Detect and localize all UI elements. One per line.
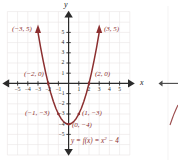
curve-arrow-left <box>35 25 41 33</box>
point-label-neg3-5: (−3, 5) <box>12 26 32 33</box>
y-tick-label-2: 2 <box>60 60 67 66</box>
y-tick-label-neg5: −5 <box>57 132 66 138</box>
x-tick-label-neg5: −5 <box>13 87 23 93</box>
point-label-neg2-0: (−2, 0) <box>24 71 44 78</box>
y-tick-label-neg4: −4 <box>57 122 66 128</box>
equation-label: y = f(x) = x2 − 4 <box>71 138 119 145</box>
adjacent-figure-fragment <box>159 6 179 160</box>
x-axis-arrow-right <box>128 79 135 87</box>
point-label-0-neg4: (0, −4) <box>72 122 92 129</box>
y-tick-label-3: 3 <box>60 50 67 56</box>
equation-tail: − 4 <box>107 137 119 145</box>
x-tick-label-1: 1 <box>74 87 84 93</box>
parabola-figure: y x −5 −4 −3 −2 −1 1 2 3 4 5 5 4 3 2 1 −… <box>0 0 178 163</box>
y-tick-label-neg3: −3 <box>57 111 66 117</box>
y-tick-label-1: 1 <box>60 71 67 77</box>
point-label-3-5: (3, 5) <box>104 26 119 33</box>
x-tick-label-4: 4 <box>104 87 114 93</box>
x-axis-label: x <box>140 79 144 87</box>
x-tick-label-neg2: −2 <box>43 87 53 93</box>
y-tick-label-5: 5 <box>60 30 67 36</box>
y-axis-label: y <box>64 1 68 9</box>
x-tick-label-neg4: −4 <box>23 87 33 93</box>
point-label-1-neg3: (1, −3) <box>82 110 102 117</box>
y-tick-label-neg2: −2 <box>57 101 66 107</box>
y-tick-label-4: 4 <box>60 40 67 46</box>
y-tick-label-neg1: −1 <box>57 91 66 97</box>
curve-arrow-right <box>96 25 102 33</box>
x-axis-arrow-left <box>2 79 9 87</box>
equation-head: y = f(x) = x <box>71 137 104 145</box>
x-tick-label-3: 3 <box>94 87 104 93</box>
x-tick-label-neg3: −3 <box>33 87 43 93</box>
x-tick-label-5: 5 <box>115 87 125 93</box>
x-tick-label-2: 2 <box>84 87 94 93</box>
point-label-2-0: (2, 0) <box>95 71 110 78</box>
point-label-neg1-neg3: (−1, −3) <box>25 110 50 117</box>
